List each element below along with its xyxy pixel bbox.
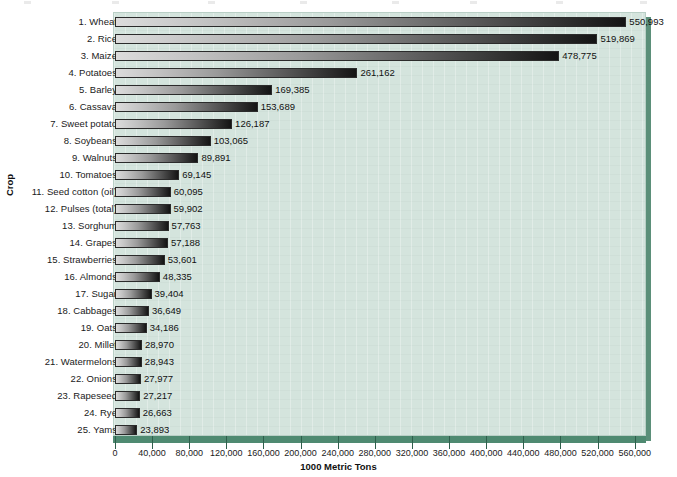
bar xyxy=(115,187,171,197)
bar-value-label: 34,186 xyxy=(150,322,179,333)
y-axis-title: Crop xyxy=(4,174,15,196)
bar xyxy=(115,391,140,401)
bar-row: 3. Maize478,775 xyxy=(0,48,677,65)
x-axis-tick-label: 360,000 xyxy=(433,448,466,458)
bar-rows: 1. Wheat550,9932. Rice519,8693. Maize478… xyxy=(0,0,677,440)
bar-category-label: 23. Rapeseed xyxy=(57,390,117,401)
bar xyxy=(115,136,211,146)
bar-value-label: 261,162 xyxy=(360,67,394,78)
bar-value-label: 27,217 xyxy=(143,390,172,401)
bar xyxy=(115,51,559,61)
bar-row: 17. Sugar39,404 xyxy=(0,286,677,303)
bar xyxy=(115,68,357,78)
bar-value-label: 89,891 xyxy=(201,152,230,163)
bar xyxy=(115,425,137,435)
x-axis-tick-labels: 040,00080,000120,000160,000200,000240,00… xyxy=(0,448,677,460)
bar-value-label: 550,993 xyxy=(629,16,663,27)
x-axis-tick-label: 120,000 xyxy=(210,448,243,458)
bar-row: 2. Rice519,869 xyxy=(0,31,677,48)
bar xyxy=(115,255,165,265)
bar-category-label: 1. Wheat xyxy=(79,16,117,27)
bar-row: 8. Soybeans103,065 xyxy=(0,133,677,150)
bar-value-label: 23,893 xyxy=(140,424,169,435)
bar-row: 14. Grapes57,188 xyxy=(0,235,677,252)
bar xyxy=(115,102,258,112)
bar xyxy=(115,17,626,27)
bar xyxy=(115,323,147,333)
bar-category-label: 2. Rice xyxy=(87,33,117,44)
x-axis-tick-label: 80,000 xyxy=(175,448,203,458)
bar-row: 16. Almonds48,335 xyxy=(0,269,677,286)
bar-category-label: 20. Millet xyxy=(78,339,117,350)
bar-row: 6. Cassava153,689 xyxy=(0,99,677,116)
bar-value-label: 27,977 xyxy=(144,373,173,384)
bar xyxy=(115,119,232,129)
bar-value-label: 103,065 xyxy=(214,135,248,146)
bar-value-label: 519,869 xyxy=(600,33,634,44)
bar xyxy=(115,340,142,350)
bar-row: 11. Seed cotton (oil)60,095 xyxy=(0,184,677,201)
bar-row: 7. Sweet potato126,187 xyxy=(0,116,677,133)
bar-category-label: 18. Cabbages xyxy=(57,305,117,316)
bar xyxy=(115,204,171,214)
bar-category-label: 8. Soybeans xyxy=(64,135,117,146)
bar-value-label: 126,187 xyxy=(235,118,269,129)
x-axis-tick-label: 200,000 xyxy=(284,448,317,458)
bar xyxy=(115,221,169,231)
bar-value-label: 59,902 xyxy=(174,203,203,214)
horizontal-bar-chart: 1. Wheat550,9932. Rice519,8693. Maize478… xyxy=(0,0,677,477)
bar xyxy=(115,289,152,299)
bar-row: 20. Millet28,970 xyxy=(0,337,677,354)
bar-category-label: 4. Potatoes xyxy=(68,67,117,78)
bar-category-label: 12. Pulses (total) xyxy=(45,203,117,214)
bar xyxy=(115,153,198,163)
x-axis-tick-label: 280,000 xyxy=(359,448,392,458)
bar xyxy=(115,170,179,180)
bar-category-label: 13. Sorghum xyxy=(62,220,117,231)
bar xyxy=(115,306,149,316)
bar-category-label: 24. Rye xyxy=(84,407,117,418)
bar-category-label: 25. Yams xyxy=(77,424,117,435)
bar-value-label: 169,385 xyxy=(275,84,309,95)
bar-row: 10. Tomatoes69,145 xyxy=(0,167,677,184)
bar-row: 22. Onions27,977 xyxy=(0,371,677,388)
bar-row: 19. Oats34,186 xyxy=(0,320,677,337)
bar-category-label: 3. Maize xyxy=(81,50,117,61)
bar xyxy=(115,34,597,44)
bar xyxy=(115,238,168,248)
bar-category-label: 19. Oats xyxy=(81,322,117,333)
x-axis-title: 1000 Metric Tons xyxy=(0,461,677,472)
bar-row: 4. Potatoes261,162 xyxy=(0,65,677,82)
bar-category-label: 10. Tomatoes xyxy=(60,169,117,180)
bar-row: 9. Walnuts89,891 xyxy=(0,150,677,167)
bar-value-label: 53,601 xyxy=(168,254,197,265)
bar-value-label: 28,970 xyxy=(145,339,174,350)
bar-row: 12. Pulses (total)59,902 xyxy=(0,201,677,218)
bar-row: 13. Sorghum57,763 xyxy=(0,218,677,235)
x-axis-tick-label: 520,000 xyxy=(581,448,614,458)
bar-value-label: 28,943 xyxy=(145,356,174,367)
bar-row: 5. Barley169,385 xyxy=(0,82,677,99)
x-axis-tick-label: 400,000 xyxy=(470,448,503,458)
bar-value-label: 60,095 xyxy=(174,186,203,197)
x-axis-tick-label: 560,000 xyxy=(618,448,651,458)
bar-value-label: 153,689 xyxy=(261,101,295,112)
bar-category-label: 5. Barley xyxy=(79,84,117,95)
bar-value-label: 39,404 xyxy=(155,288,184,299)
bar-value-label: 69,145 xyxy=(182,169,211,180)
bar-category-label: 22. Onions xyxy=(71,373,117,384)
bar-category-label: 17. Sugar xyxy=(75,288,117,299)
bar xyxy=(115,272,160,282)
bar-row: 15. Strawberries53,601 xyxy=(0,252,677,269)
x-axis-tick-label: 160,000 xyxy=(247,448,280,458)
x-axis-tick-label: 320,000 xyxy=(396,448,429,458)
bar xyxy=(115,408,140,418)
bar-value-label: 478,775 xyxy=(562,50,596,61)
bar xyxy=(115,374,141,384)
x-axis-tick-label: 240,000 xyxy=(321,448,354,458)
bar xyxy=(115,85,272,95)
bar xyxy=(115,357,142,367)
bar-value-label: 48,335 xyxy=(163,271,192,282)
bar-value-label: 36,649 xyxy=(152,305,181,316)
x-axis-tick-label: 480,000 xyxy=(544,448,577,458)
